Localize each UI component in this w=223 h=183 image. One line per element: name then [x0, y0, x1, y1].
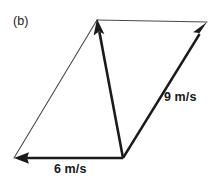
- vector-label-6ms: 6 m/s: [54, 163, 86, 176]
- panel-label: (b): [13, 15, 29, 28]
- construction-line-top: [97, 20, 207, 22]
- construction-line-left: [14, 20, 97, 158]
- vector-label-9ms: 9 m/s: [164, 91, 196, 104]
- vector-9ms-arrowhead-icon: [193, 22, 207, 38]
- vector-diagram-figure: (b) 9 m/s 6 m/s: [0, 0, 223, 183]
- vector-resultant-shaft: [99, 32, 123, 158]
